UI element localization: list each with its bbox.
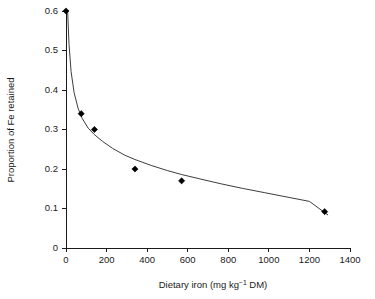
x-tick-label: 1000 [258,254,279,265]
y-tick-label: 0.1 [45,202,58,213]
y-tick-label: 0.3 [45,123,58,134]
x-tick-label: 600 [180,254,196,265]
x-tick-label: 400 [139,254,155,265]
x-tick-label: 800 [220,254,236,265]
scatter-plot: 00.10.20.30.40.50.6 02004006008001000120… [0,0,375,299]
x-tick-label: 1400 [339,254,360,265]
y-tick-label: 0.5 [45,44,58,55]
y-tick-label: 0.2 [45,163,58,174]
x-tick-label: 1200 [299,254,320,265]
x-axis-title: Dietary iron (mg kg−1 DM) [159,279,268,291]
y-tick-label: 0.6 [45,5,58,16]
x-axis-title-post: DM) [247,279,268,290]
x-axis-title-pre: Dietary iron (mg kg [159,279,239,290]
chart-figure: 00.10.20.30.40.50.6 02004006008001000120… [0,0,375,299]
x-tick-label: 0 [63,254,68,265]
y-tick-label: 0.4 [45,84,58,95]
y-tick-label: 0 [53,242,58,253]
x-tick-label: 200 [99,254,115,265]
y-axis-title: Proportion of Fe retained [5,77,16,182]
